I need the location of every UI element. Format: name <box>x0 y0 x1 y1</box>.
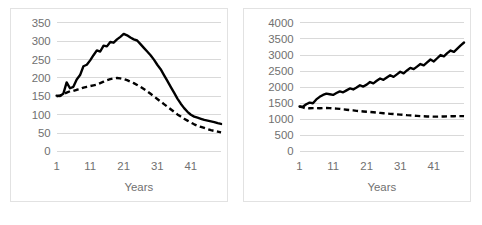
right-chart-plot: 4000350030002500200015001000500011121314… <box>244 9 470 201</box>
y-tick-label: 3500 <box>268 33 293 45</box>
x-axis-title: Years <box>124 181 153 193</box>
gridlines <box>300 23 465 152</box>
chart-panel-left: 350300250200150100500111213141Years <box>10 8 228 202</box>
x-tick-label: 1 <box>296 160 302 172</box>
y-tick-label: 100 <box>32 109 51 121</box>
x-tick-label: 11 <box>327 160 339 172</box>
y-axis-tick-labels: 350300250200150100500 <box>32 17 51 158</box>
left-chart-plot: 350300250200150100500111213141Years <box>11 9 227 201</box>
x-tick-label: 21 <box>117 160 130 172</box>
x-tick-label: 31 <box>394 160 407 172</box>
x-tick-label: 21 <box>360 160 373 172</box>
y-tick-label: 150 <box>32 90 51 102</box>
dual-line-chart-figure: 350300250200150100500111213141Years 4000… <box>0 0 482 225</box>
series-line-solid <box>57 34 221 124</box>
series-line-dashed <box>300 106 465 116</box>
y-tick-label: 0 <box>287 145 293 157</box>
series-line-solid <box>300 42 465 106</box>
y-tick-label: 4000 <box>268 17 293 29</box>
x-axis-tick-labels: 111213141 <box>53 160 197 172</box>
y-tick-label: 200 <box>32 72 51 84</box>
y-tick-label: 0 <box>44 145 50 157</box>
y-tick-label: 2000 <box>268 81 293 93</box>
x-tick-label: 41 <box>427 160 440 172</box>
y-tick-label: 500 <box>275 129 294 141</box>
series-line-dashed <box>57 78 221 132</box>
y-tick-label: 2500 <box>268 65 293 77</box>
y-tick-label: 300 <box>32 35 51 47</box>
y-tick-label: 1500 <box>268 97 293 109</box>
chart-panel-right: 4000350030002500200015001000500011121314… <box>243 8 471 202</box>
y-tick-label: 1000 <box>268 113 293 125</box>
y-tick-label: 250 <box>32 54 51 66</box>
x-tick-label: 41 <box>185 160 198 172</box>
x-tick-label: 1 <box>53 160 59 172</box>
x-axis-tick-labels: 111213141 <box>296 160 440 172</box>
y-tick-label: 350 <box>32 17 51 29</box>
y-axis-tick-labels: 40003500300025002000150010005000 <box>268 17 293 158</box>
x-tick-label: 11 <box>84 160 96 172</box>
y-tick-label: 50 <box>38 127 51 139</box>
x-axis-title: Years <box>367 181 396 193</box>
x-tick-label: 31 <box>151 160 164 172</box>
y-tick-label: 3000 <box>268 49 293 61</box>
